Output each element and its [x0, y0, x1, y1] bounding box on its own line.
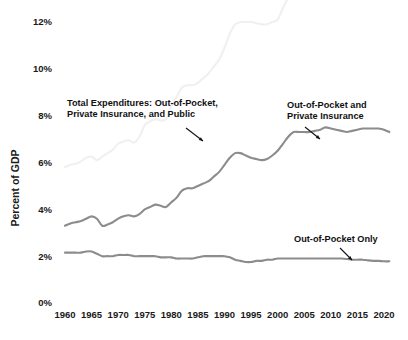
x-tick-label: 1985 [187, 309, 209, 320]
x-tick-label: 2015 [347, 309, 369, 320]
annotation-label: Total Expenditures: Out-of-Pocket, [67, 98, 218, 108]
x-tick-label: 1970 [108, 309, 129, 320]
y-axis-title: Percent of GDP [9, 149, 21, 226]
chart-container: 0%2%4%6%8%10%12% 19601965197019751980198… [0, 0, 408, 340]
x-tick-label: 2000 [267, 309, 288, 320]
x-tick-label: 1995 [241, 309, 263, 320]
y-tick-label: 4% [38, 204, 52, 215]
x-tick-label: 2005 [294, 309, 316, 320]
line-chart: 0%2%4%6%8%10%12% 19601965197019751980198… [0, 0, 408, 340]
x-tick-label: 1990 [214, 309, 235, 320]
chart-background [0, 0, 408, 340]
y-tick-label: 12% [33, 16, 53, 27]
x-tick-label: 2010 [320, 309, 341, 320]
annotation-label: Out-of-Pocket Only [294, 234, 379, 244]
annotation-label: Private Insurance, and Public [67, 109, 195, 119]
x-tick-label: 1965 [81, 309, 103, 320]
x-tick-label: 1975 [134, 309, 156, 320]
y-tick-label: 2% [38, 251, 52, 262]
annotation-label: Out-of-Pocket and [287, 100, 367, 110]
annotation-label: Private Insurance [287, 111, 364, 121]
y-tick-label: 6% [38, 157, 52, 168]
x-tick-label: 2020 [373, 309, 394, 320]
x-tick-label: 1960 [54, 309, 75, 320]
y-tick-label: 10% [33, 63, 53, 74]
y-tick-label: 8% [38, 110, 52, 121]
y-tick-label: 0% [38, 297, 52, 308]
x-tick-label: 1980 [161, 309, 182, 320]
